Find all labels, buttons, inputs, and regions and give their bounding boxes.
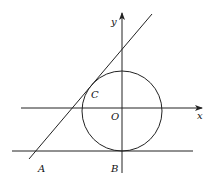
- point-a-label: A: [37, 163, 45, 174]
- point-b-label: B: [110, 163, 118, 174]
- y-axis-label: y: [110, 16, 117, 27]
- x-axis-label: x: [197, 110, 203, 121]
- diagram-canvas: y x O C A B: [0, 0, 212, 185]
- point-c-label: C: [91, 89, 99, 100]
- tangent-line: [29, 14, 152, 159]
- origin-label: O: [111, 111, 119, 122]
